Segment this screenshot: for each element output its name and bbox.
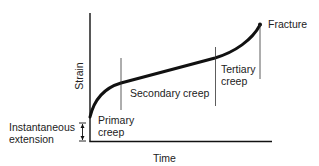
y-axis-label: Strain [73, 59, 85, 93]
tertiary-creep-label-line2: creep [221, 75, 247, 87]
instantaneous-extension-label-line2: extension [9, 133, 54, 145]
primary-creep-label-line2: creep [98, 126, 124, 138]
instantaneous-extension-label-line1: Instantaneous [9, 121, 75, 133]
fracture-label: Fracture [268, 18, 307, 30]
secondary-creep-label: Secondary creep [130, 87, 209, 99]
x-axis-label: Time [153, 152, 176, 164]
tertiary-creep-label-line1: Tertiary [221, 63, 255, 75]
primary-creep-label-line1: Primary [98, 114, 134, 126]
instantaneous-extension-arrow [79, 123, 86, 141]
